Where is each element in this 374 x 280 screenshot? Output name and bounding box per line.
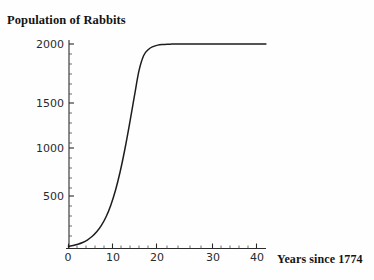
x-tick-label: 0 (65, 251, 72, 264)
x-tick-label: 40 (250, 251, 264, 264)
logistic-growth-chart: 2000 1500 1000 500 (0, 0, 374, 280)
y-tick-label: 1500 (36, 97, 64, 110)
chart-screenshot: Population of Rabbits 2000 (0, 0, 374, 280)
x-tick-label: 20 (150, 251, 164, 264)
y-axis-group: 2000 1500 1000 500 (36, 38, 74, 249)
y-tick-label: 2000 (36, 38, 64, 51)
x-tick-label: 10 (106, 251, 120, 264)
population-curve (69, 44, 266, 246)
x-axis-group: 0 10 20 30 40 (65, 244, 267, 265)
y-tick-label: 1000 (36, 142, 64, 155)
y-tick-label: 500 (43, 190, 64, 203)
x-axis-title: Years since 1774 (277, 252, 363, 267)
x-tick-label: 30 (206, 251, 220, 264)
